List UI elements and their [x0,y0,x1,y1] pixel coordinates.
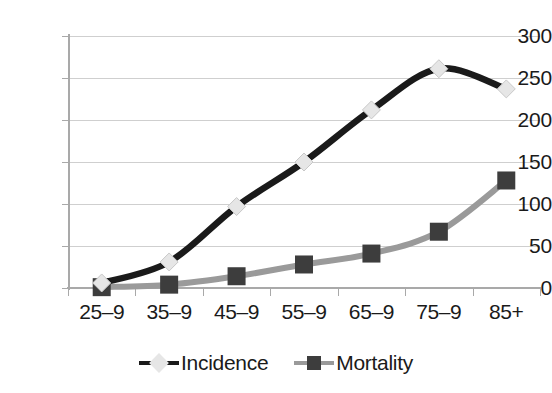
x-tick-2 [203,289,204,296]
series-mortality [93,171,516,296]
gridline-50 [68,246,540,247]
y-axis-label-100: 100 [504,193,552,214]
legend-item-incidence[interactable]: Incidence [139,352,268,373]
legend-label-mortality: Mortality [336,352,413,373]
series-line-incidence [102,68,507,283]
data-point-mortality-65–9 [362,245,380,263]
x-tick-4 [338,289,339,296]
x-axis-label-0: 25–9 [65,301,139,323]
y-axis-label-250: 250 [504,67,552,88]
incidence-legend-marker-icon [139,355,179,371]
x-axis-label-6: 85+ [469,301,543,323]
x-axis-label-5: 75–9 [402,301,476,323]
x-axis-label-1: 35–9 [132,301,206,323]
x-tick-3 [270,289,271,296]
data-point-incidence-75–9 [430,60,448,78]
y-axis-label-300: 300 [504,25,552,46]
y-axis-label-150: 150 [504,151,552,172]
data-point-incidence-45–9 [228,198,246,216]
gridline-150 [68,162,540,163]
x-tick-6 [473,289,474,296]
x-tick-0 [68,289,69,296]
mortality-legend-marker-icon [294,355,334,371]
y-axis-line [68,34,70,290]
x-axis-line [67,287,541,289]
series-layer [0,0,552,393]
data-point-mortality-55–9 [295,255,313,273]
x-axis-label-2: 45–9 [200,301,274,323]
x-tick-1 [135,289,136,296]
y-axis-label-50: 50 [504,235,552,256]
x-axis-label-3: 55–9 [267,301,341,323]
gridline-200 [68,120,540,121]
series-incidence [93,60,516,292]
data-point-mortality-35–9 [160,276,178,294]
x-tick-7 [540,289,541,296]
y-axis-label-200: 200 [504,109,552,130]
data-point-incidence-35–9 [160,253,178,271]
legend-label-incidence: Incidence [181,352,268,373]
gridline-100 [68,204,540,205]
gridline-250 [68,78,540,79]
x-tick-5 [405,289,406,296]
data-point-mortality-45–9 [228,267,246,285]
line-chart: 050100150200250300 25–935–945–955–965–97… [0,0,552,393]
gridline-300 [68,36,540,37]
data-point-incidence-65–9 [362,101,380,119]
legend-item-mortality[interactable]: Mortality [294,352,413,373]
x-axis-label-4: 65–9 [334,301,408,323]
chart-legend: Incidence Mortality [0,352,552,373]
data-point-incidence-25–9 [93,274,111,292]
series-line-mortality [102,180,507,287]
data-point-mortality-85+ [497,171,515,189]
data-point-mortality-75–9 [430,223,448,241]
